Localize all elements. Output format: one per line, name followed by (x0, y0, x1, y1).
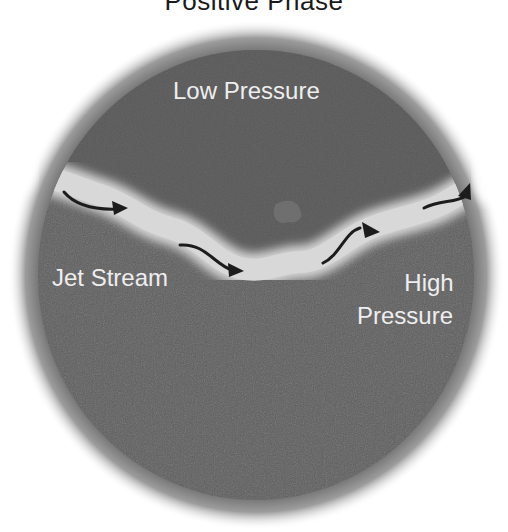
high-pressure-label-line2: Pressure (357, 302, 453, 330)
high-pressure-label-line1: High (384, 269, 474, 297)
low-pressure-label: Low Pressure (173, 77, 320, 105)
jet-stream-label: Jet Stream (52, 264, 168, 292)
